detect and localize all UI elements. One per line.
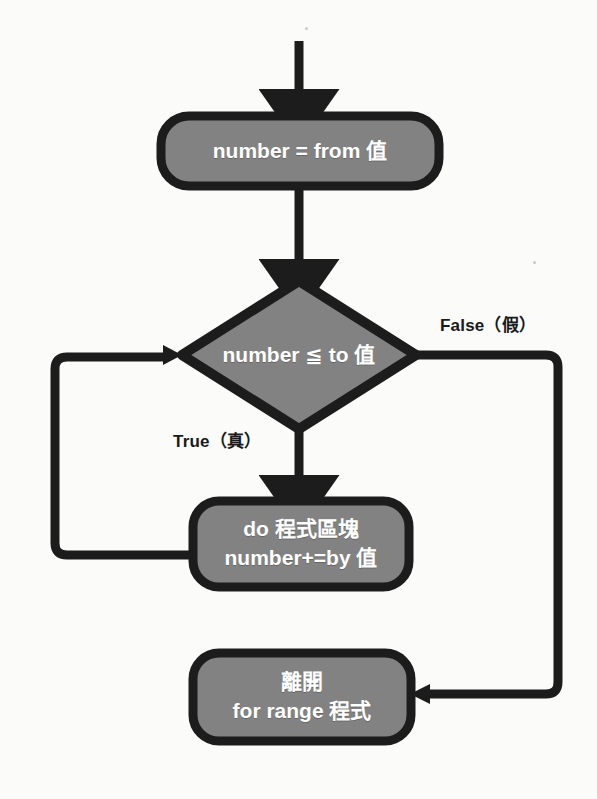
flowchart-canvas: number = from 值 number ≦ to 值 do 程式區塊 nu… [0,0,597,799]
edge-condition-false [410,355,558,704]
scan-speck [533,261,536,264]
node-init-shape [161,116,439,186]
edge-label-true: True（真） [173,427,261,452]
edge-label-false: False（假） [440,311,536,336]
node-condition-shape [182,281,416,429]
node-exit-shape [193,653,411,741]
scan-speck [305,27,308,30]
node-body-shape [193,501,409,587]
flowchart-graphics [0,0,597,799]
